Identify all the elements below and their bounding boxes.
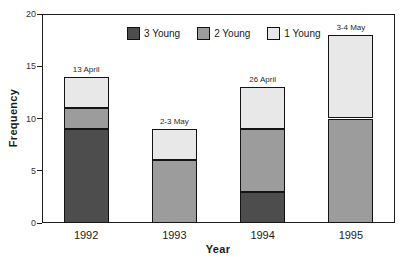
legend-swatch-3-young — [127, 27, 140, 40]
bar-segment-1992-1-young — [64, 77, 109, 108]
y-tick-label-15: 15 — [26, 60, 36, 72]
legend-item-2-young: 2 Young — [197, 27, 250, 40]
bar-segment-1995-2-young — [328, 119, 373, 224]
x-tick-label-1994: 1994 — [233, 229, 293, 241]
y-tick-label-10: 10 — [26, 113, 36, 125]
y-tick-mark-15 — [37, 66, 42, 67]
bar-annotation-1995: 3-4 May — [311, 23, 391, 32]
bar-segment-1992-2-young — [64, 108, 109, 129]
bar-segment-1994-1-young — [240, 87, 285, 129]
y-axis-title: Frequency — [7, 89, 19, 147]
x-tick-label-1992: 1992 — [56, 229, 116, 241]
legend-swatch-1-young — [267, 27, 280, 40]
bar-segment-1994-2-young — [240, 129, 285, 192]
bar-segment-1992-3-young — [64, 129, 109, 223]
x-axis-title: Year — [206, 243, 230, 255]
legend-swatch-2-young — [197, 27, 210, 40]
y-tick-label-0: 0 — [31, 217, 36, 229]
legend-item-3-young: 3 Young — [127, 27, 180, 40]
y-tick-mark-20 — [37, 14, 42, 15]
legend-label-1-young: 1 Young — [284, 28, 320, 39]
stacked-bar-chart-figure: Frequency Year 0510152013 April19922-3 M… — [0, 0, 420, 265]
bar-segment-1993-2-young — [152, 160, 197, 223]
y-tick-label-20: 20 — [26, 8, 36, 20]
bar-segment-1995-1-young — [328, 35, 373, 119]
bar-segment-1993-1-young — [152, 129, 197, 160]
bar-annotation-1992: 13 April — [46, 65, 126, 74]
bar-segment-1994-3-young — [240, 192, 285, 223]
bar-annotation-1994: 26 April — [223, 75, 303, 84]
legend-label-3-young: 3 Young — [144, 28, 180, 39]
legend: 3 Young2 Young1 Young — [127, 27, 321, 40]
y-tick-mark-5 — [37, 170, 42, 171]
bar-annotation-1993: 2-3 May — [134, 117, 214, 126]
legend-label-2-young: 2 Young — [214, 28, 250, 39]
y-tick-mark-10 — [37, 118, 42, 119]
y-tick-label-5: 5 — [31, 165, 36, 177]
legend-item-1-young: 1 Young — [267, 27, 320, 40]
x-tick-label-1993: 1993 — [144, 229, 204, 241]
y-tick-mark-0 — [37, 223, 42, 224]
x-tick-label-1995: 1995 — [321, 229, 381, 241]
